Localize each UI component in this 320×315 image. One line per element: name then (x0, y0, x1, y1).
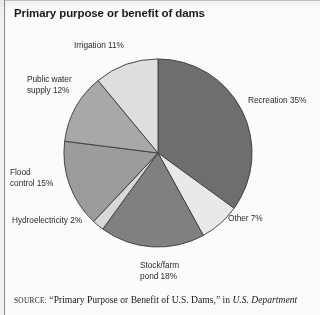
pie-label-irrigation: Irrigation 11% (74, 40, 124, 51)
pie-label-flood-control: Flood control 15% (10, 167, 53, 188)
source-text-italic: U.S. Department (232, 294, 297, 305)
source-note: SOURCE: “Primary Purpose or Benefit of U… (14, 294, 314, 307)
pie-label-recreation: Recreation 35% (248, 95, 306, 106)
pie-label-public-water-supply: Public water supply 12% (27, 74, 72, 95)
pie-chart-area: Recreation 35%Other 7%Stock/farm pond 18… (0, 0, 320, 285)
source-text: “Primary Purpose or Benefit of U.S. Dams… (47, 294, 232, 305)
pie-label-other: Other 7% (228, 213, 263, 224)
pie-label-hydroelectricity: Hydroelectricity 2% (12, 215, 82, 226)
pie-slices: Recreation 35%Other 7%Stock/farm pond 18… (64, 59, 252, 247)
pie-label-stock-farm-pond: Stock/farm pond 18% (140, 260, 179, 281)
pie-chart-svg: Recreation 35%Other 7%Stock/farm pond 18… (63, 58, 253, 248)
figure-page: Primary purpose or benefit of dams Recre… (0, 0, 320, 315)
source-label: SOURCE: (14, 296, 47, 305)
